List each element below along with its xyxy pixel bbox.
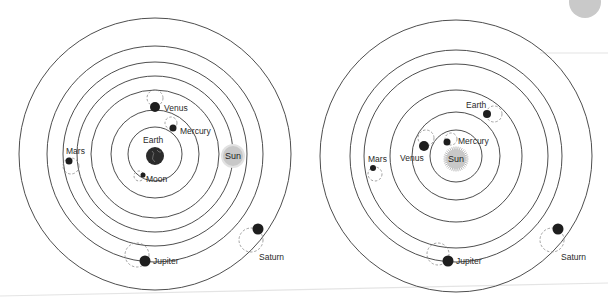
mercury-icon	[170, 125, 177, 132]
cosmology-diagram: EarthMoonMercuryVenusSunMarsJupiterSatur…	[0, 0, 608, 307]
mercury-icon	[444, 139, 451, 146]
corner-disc-icon	[569, 0, 601, 18]
venus-icon	[150, 102, 160, 112]
body-sun: Sun	[221, 144, 245, 168]
mercury-label: Mercury	[458, 136, 489, 146]
body-saturn: Saturn	[540, 224, 586, 263]
earth-label: Earth	[466, 100, 487, 110]
earth-icon	[483, 110, 491, 118]
sun-label: Sun	[225, 151, 241, 161]
rule-line	[0, 283, 608, 296]
body-earth: Earth	[143, 135, 164, 165]
saturn-icon	[553, 224, 564, 235]
body-mars: Mars	[63, 146, 85, 174]
body-moon: Moon	[134, 171, 168, 184]
venus-label: Venus	[400, 153, 424, 163]
geocentric-diagram: EarthMoonMercuryVenusSunMarsJupiterSatur…	[19, 18, 291, 290]
body-venus: Venus	[147, 90, 188, 113]
earth-label: Earth	[143, 135, 164, 145]
mars-label: Mars	[66, 146, 85, 156]
mercury-label: Mercury	[180, 126, 211, 136]
jupiter-icon	[443, 256, 454, 267]
sun-label: Sun	[448, 154, 464, 164]
saturn-icon	[253, 224, 264, 235]
body-saturn: Saturn	[239, 224, 284, 263]
moon-label: Moon	[146, 174, 168, 184]
body-earth: Earth	[466, 100, 502, 122]
venus-icon	[419, 141, 429, 151]
body-sun: Sun	[444, 147, 469, 172]
mars-icon	[370, 165, 376, 171]
mars-label: Mars	[368, 154, 387, 164]
earth-globe-icon	[146, 147, 164, 165]
moon-icon	[141, 173, 146, 178]
body-mars: Mars	[368, 154, 387, 181]
body-mercury: Mercury	[444, 133, 490, 146]
saturn-label: Saturn	[259, 252, 284, 262]
saturn-label: Saturn	[561, 252, 586, 262]
mars-icon	[66, 158, 73, 165]
body-jupiter: Jupiter	[125, 243, 179, 267]
venus-label: Venus	[164, 103, 188, 113]
heliocentric-diagram: SunMercuryVenusEarthMarsJupiterSaturn	[320, 20, 592, 292]
jupiter-icon	[140, 256, 151, 267]
jupiter-label: Jupiter	[456, 256, 482, 266]
jupiter-label: Jupiter	[153, 256, 179, 266]
